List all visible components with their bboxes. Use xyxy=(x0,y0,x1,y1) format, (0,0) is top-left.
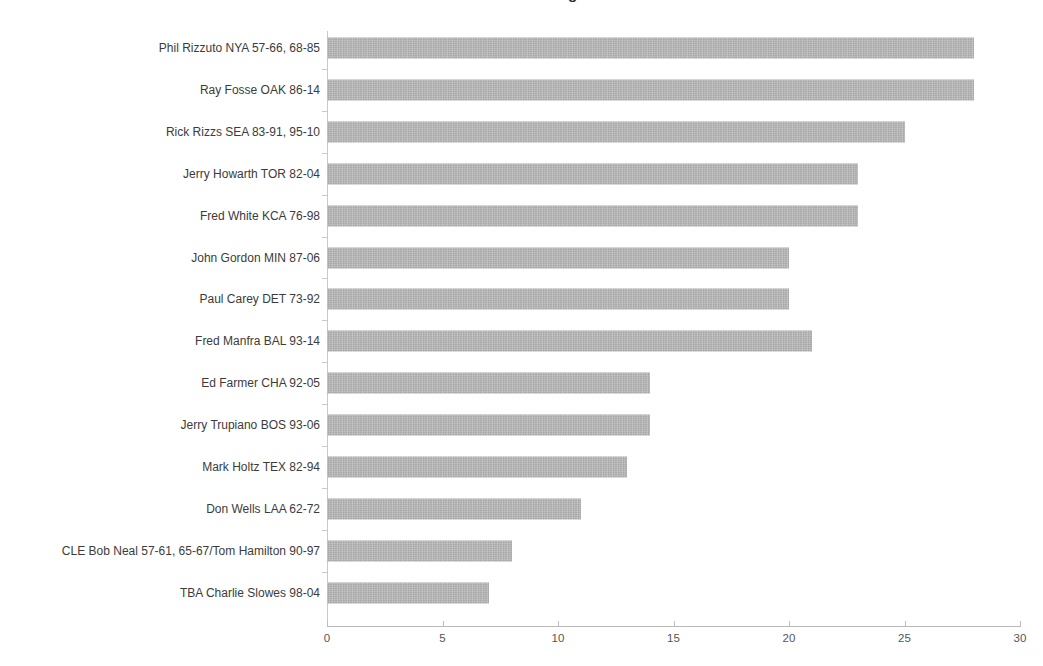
category-label: Don Wells LAA 62-72 xyxy=(206,502,320,516)
category-label: John Gordon MIN 87-06 xyxy=(191,251,320,265)
bar xyxy=(327,163,858,184)
bar xyxy=(327,582,489,603)
bar xyxy=(327,498,581,519)
bar xyxy=(327,540,512,561)
category-label: Paul Carey DET 73-92 xyxy=(199,292,320,306)
category-label: Phil Rizzuto NYA 57-66, 68-85 xyxy=(159,41,320,55)
bar xyxy=(327,205,858,226)
bar xyxy=(327,121,905,142)
x-axis-tick-label: 25 xyxy=(898,632,911,644)
category-label: Jerry Trupiano BOS 93-06 xyxy=(181,418,320,432)
x-axis-tick xyxy=(443,621,444,627)
category-label: CLE Bob Neal 57-61, 65-67/Tom Hamilton 9… xyxy=(62,544,320,558)
category-label: Fred White KCA 76-98 xyxy=(200,209,320,223)
x-axis-tick xyxy=(558,621,559,627)
y-axis-tick xyxy=(322,153,327,154)
x-axis-tick-label: 5 xyxy=(439,632,445,644)
y-axis-tick xyxy=(322,572,327,573)
bar xyxy=(327,415,650,436)
y-axis-tick xyxy=(322,530,327,531)
y-axis-tick xyxy=(322,195,327,196)
category-label: Ed Farmer CHA 92-05 xyxy=(201,376,320,390)
x-axis-tick xyxy=(789,621,790,627)
x-axis-tick-label: 10 xyxy=(552,632,565,644)
bar xyxy=(327,247,789,268)
y-axis-tick xyxy=(322,278,327,279)
category-label: Rick Rizzs SEA 83-91, 95-10 xyxy=(166,125,320,139)
category-label: Fred Manfra BAL 93-14 xyxy=(195,334,320,348)
bar xyxy=(327,289,789,310)
category-label: Ray Fosse OAK 86-14 xyxy=(200,83,320,97)
plot-area: 051015202530Phil Rizzuto NYA 57-66, 68-8… xyxy=(0,0,1043,666)
bar xyxy=(327,38,974,59)
category-label: Mark Holtz TEX 82-94 xyxy=(202,460,320,474)
y-axis-tick xyxy=(322,320,327,321)
bar xyxy=(327,79,974,100)
x-axis-tick-label: 30 xyxy=(1014,632,1027,644)
x-axis-tick xyxy=(327,621,328,627)
category-label: Jerry Howarth TOR 82-04 xyxy=(183,167,320,181)
x-axis-tick xyxy=(674,621,675,627)
category-label: TBA Charlie Slowes 98-04 xyxy=(180,586,320,600)
bar xyxy=(327,331,812,352)
y-axis-tick xyxy=(322,362,327,363)
y-axis-tick xyxy=(322,446,327,447)
y-axis-tick xyxy=(322,237,327,238)
y-axis-tick xyxy=(322,404,327,405)
x-axis-tick-label: 20 xyxy=(783,632,796,644)
bar-chart: MLB Broadcasters — Longest Tenures 05101… xyxy=(0,0,1043,666)
y-axis-tick xyxy=(322,488,327,489)
y-axis-tick xyxy=(322,69,327,70)
bar xyxy=(327,373,650,394)
x-axis-tick-label: 15 xyxy=(667,632,680,644)
x-axis-tick xyxy=(1020,621,1021,627)
x-axis-tick-label: 0 xyxy=(324,632,330,644)
bar xyxy=(327,457,627,478)
y-axis-tick xyxy=(322,111,327,112)
x-axis-tick xyxy=(905,621,906,627)
